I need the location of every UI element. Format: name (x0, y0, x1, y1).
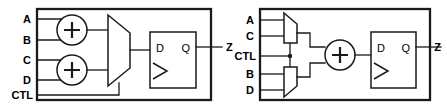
panel-left-flipflop (150, 32, 196, 88)
panel-right-input-label-c: C (246, 30, 254, 42)
panel-right-mux-bottom (284, 67, 297, 97)
panel-left-input-label-d: D (23, 74, 31, 86)
panel-left-flipflop-q-pin: Q (181, 42, 190, 54)
panel-right-input-label-a: A (246, 14, 254, 26)
panel-right-wire-mux-top-out (297, 33, 325, 47)
panel-right: A C CTL B D (235, 9, 442, 100)
panel-right-output-label-z: Z (434, 41, 441, 53)
panel-right-flipflop-d-pin: D (377, 42, 385, 54)
panel-right-adder (325, 40, 355, 70)
panel-left-input-label-b: B (23, 34, 31, 46)
panel-left: A B C D CTL (12, 9, 233, 101)
panel-left-adder-top (57, 15, 87, 45)
panel-right-input-label-d: D (246, 84, 254, 96)
panel-left-wire-ctl (37, 83, 119, 95)
panel-left-flipflop-d-pin: D (156, 42, 164, 54)
panel-left-output-label-z: Z (226, 41, 233, 53)
panel-left-mux (108, 15, 130, 86)
schematic-figure: A B C D CTL (0, 0, 447, 109)
panel-right-flipflop-q-pin: Q (401, 42, 410, 54)
panel-left-input-label-a: A (23, 13, 31, 25)
panel-left-input-label-c: C (23, 54, 31, 66)
panel-left-adder-bottom (57, 55, 87, 85)
panel-left-input-label-ctl: CTL (12, 89, 34, 101)
panel-right-wire-mux-bottom-out (297, 63, 325, 77)
panel-right-input-label-b: B (246, 68, 254, 80)
panel-right-ctl-junction-dot (288, 54, 292, 58)
panel-right-input-label-ctl: CTL (235, 50, 257, 62)
panel-right-flipflop (371, 32, 416, 88)
panel-right-mux-top (284, 13, 297, 43)
